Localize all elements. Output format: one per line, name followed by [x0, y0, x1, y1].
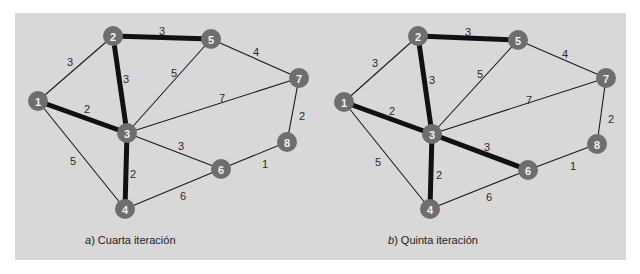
node-2: 2 — [103, 26, 123, 46]
edge-3-6 — [127, 133, 221, 169]
edge-weight-1-4: 5 — [375, 156, 381, 168]
edge-weight-1-3: 2 — [389, 105, 395, 117]
graph-diagram: 325335732642112345678 325335732642112345… — [0, 0, 640, 274]
edge-6-8 — [221, 142, 287, 169]
node-label: 3 — [124, 128, 130, 140]
node-4: 4 — [115, 199, 135, 219]
node-5: 5 — [508, 30, 528, 50]
caption-panel-a: a) Cuarta iteración — [85, 234, 176, 246]
node-label: 2 — [110, 31, 116, 43]
node-label: 8 — [284, 137, 290, 149]
edge-weight-6-8: 1 — [262, 158, 268, 170]
node-label: 5 — [515, 35, 521, 47]
node-label: 6 — [218, 164, 224, 176]
selected-edge-3-6 — [432, 134, 528, 170]
edge-weight-3-5: 5 — [477, 68, 483, 80]
selected-edge-3-4 — [125, 133, 127, 209]
node-label: 8 — [594, 139, 600, 151]
node-label: 1 — [35, 96, 41, 108]
node-label: 7 — [603, 73, 609, 85]
node-6: 6 — [518, 160, 538, 180]
edge-weight-3-4: 2 — [436, 169, 442, 181]
edge-weight-6-8: 1 — [570, 160, 576, 172]
node-6: 6 — [211, 159, 231, 179]
edge-weight-3-6: 3 — [178, 140, 184, 152]
edge-weight-2-5: 3 — [159, 25, 165, 37]
edge-3-5 — [127, 39, 211, 133]
edge-weight-2-3: 3 — [429, 74, 435, 86]
node-3: 3 — [422, 124, 442, 144]
edges — [38, 36, 299, 209]
edge-5-7 — [211, 39, 299, 78]
edge-4-6 — [430, 170, 528, 209]
node-8: 8 — [587, 134, 607, 154]
edge-weight-3-7: 7 — [219, 92, 225, 104]
node-3: 3 — [117, 123, 137, 143]
panel-b-graph: 325335732642112345678 — [334, 26, 616, 219]
edges — [344, 36, 606, 209]
node-8: 8 — [277, 132, 297, 152]
edge-weight-5-7: 4 — [562, 48, 568, 60]
node-5: 5 — [201, 29, 221, 49]
node-label: 1 — [341, 97, 347, 109]
edge-weight-1-2: 3 — [372, 57, 378, 69]
node-2: 2 — [408, 26, 428, 46]
panel-a-graph: 325335732642112345678 — [28, 25, 309, 219]
node-label: 7 — [296, 73, 302, 85]
node-1: 1 — [334, 92, 354, 112]
node-label: 5 — [208, 34, 214, 46]
edge-weight-1-4: 5 — [70, 155, 76, 167]
node-7: 7 — [289, 68, 309, 88]
edge-weight-1-3: 2 — [84, 103, 90, 115]
node-4: 4 — [420, 199, 440, 219]
edge-6-8 — [528, 144, 597, 170]
node-label: 4 — [122, 204, 129, 216]
edge-weight-7-8: 2 — [299, 110, 305, 122]
caption-panel-b: b) Quinta iteración — [388, 234, 478, 246]
node-label: 4 — [427, 204, 434, 216]
edge-weight-1-2: 3 — [67, 56, 73, 68]
edge-weight-4-6: 6 — [486, 191, 492, 203]
edge-1-2 — [344, 36, 418, 102]
caption-text: ) Quinta iteración — [394, 234, 478, 246]
edge-weight-5-7: 4 — [253, 46, 259, 58]
edge-3-7 — [127, 78, 299, 133]
edge-weight-7-8: 2 — [608, 113, 614, 125]
edge-weight-3-6: 3 — [484, 141, 490, 153]
node-7: 7 — [596, 68, 616, 88]
edge-weight-2-3: 3 — [123, 73, 129, 85]
edge-weight-3-4: 2 — [130, 168, 136, 180]
edge-weight-2-5: 3 — [465, 26, 471, 38]
edge-weight-3-7: 7 — [526, 94, 532, 106]
edge-1-2 — [38, 36, 113, 101]
node-label: 6 — [525, 165, 531, 177]
node-label: 2 — [415, 31, 421, 43]
edge-weight-4-6: 6 — [180, 190, 186, 202]
node-label: 3 — [429, 129, 435, 141]
node-1: 1 — [28, 91, 48, 111]
selected-edge-3-4 — [430, 134, 432, 209]
caption-text: ) Cuarta iteración — [91, 234, 175, 246]
edge-4-6 — [125, 169, 221, 209]
edge-weight-3-5: 5 — [171, 67, 177, 79]
